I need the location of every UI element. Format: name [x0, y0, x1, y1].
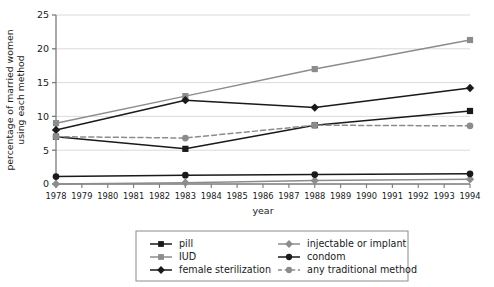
data-point-marker: [158, 241, 164, 247]
series-layer: [52, 37, 474, 188]
y-axis-tick-label: 10: [37, 111, 49, 122]
x-axis-tick-label: 1984: [201, 191, 222, 201]
legend-label: pill: [179, 238, 193, 249]
x-axis-tick-label: 1986: [252, 191, 273, 201]
series-line: [56, 174, 470, 177]
data-point-marker: [466, 84, 474, 92]
legend-label: condom: [307, 251, 346, 262]
data-point-marker: [311, 122, 318, 129]
series-line: [56, 40, 470, 123]
x-axis-tick-label: 1994: [459, 191, 480, 201]
y-axis-title-line1: percentage of married women: [4, 29, 15, 170]
data-point-marker: [467, 37, 473, 43]
series-line: [56, 88, 470, 130]
legend-label: IUD: [179, 251, 196, 262]
data-point-marker: [286, 267, 292, 273]
x-axis-tick-label: 1980: [97, 191, 118, 201]
y-axis-tick-label: 20: [37, 43, 49, 54]
series-line: [56, 179, 470, 184]
line-chart: 0510152025 19781979198019811982198319841…: [0, 0, 494, 287]
y-axis-title: percentage of married womenusing each me…: [4, 29, 26, 170]
x-axis-title: year: [252, 205, 273, 216]
y-axis: 0510152025: [37, 9, 56, 189]
data-point-marker: [52, 126, 60, 134]
y-axis-title-line2: using each method: [15, 55, 26, 144]
legend-label: female sterilization: [179, 264, 271, 275]
x-axis-title: year: [252, 205, 273, 216]
x-axis-tick-label: 1990: [356, 191, 377, 201]
data-point-marker: [286, 254, 292, 260]
y-axis-tick-label: 0: [43, 178, 49, 189]
series-line: [56, 125, 470, 138]
data-point-marker: [53, 173, 60, 180]
data-point-marker: [53, 120, 59, 126]
data-point-marker: [467, 171, 474, 178]
data-point-marker: [467, 123, 474, 130]
data-series: [53, 171, 474, 180]
y-axis-tick-label: 15: [37, 77, 49, 88]
data-point-marker: [158, 254, 164, 260]
data-point-marker: [467, 108, 473, 114]
data-point-marker: [52, 180, 60, 188]
data-point-marker: [311, 171, 318, 178]
x-axis-tick-label: 1988: [304, 191, 325, 201]
x-axis-tick-label: 1987: [278, 191, 299, 201]
x-axis-tick-label: 1978: [45, 191, 66, 201]
data-point-marker: [311, 103, 319, 111]
data-point-marker: [53, 133, 60, 140]
data-point-marker: [182, 172, 189, 179]
x-axis: 1978197919801981198219831984198519861987…: [45, 184, 480, 201]
x-axis-tick-label: 1985: [227, 191, 248, 201]
x-axis-tick-label: 1992: [408, 191, 429, 201]
data-point-marker: [182, 135, 189, 142]
x-axis-tick-label: 1989: [330, 191, 351, 201]
x-axis-tick-label: 1991: [382, 191, 403, 201]
x-axis-tick-label: 1993: [434, 191, 455, 201]
data-series: [53, 37, 473, 126]
y-axis-tick-label: 5: [43, 145, 49, 156]
data-series: [52, 84, 474, 134]
data-point-marker: [312, 66, 318, 72]
y-axis-tick-label: 25: [37, 9, 49, 20]
x-axis-tick-label: 1979: [71, 191, 92, 201]
data-point-marker: [181, 178, 189, 186]
legend-label: any traditional method: [307, 264, 417, 275]
data-point-marker: [182, 146, 188, 152]
data-series: [53, 122, 474, 142]
x-axis-tick-label: 1981: [123, 191, 144, 201]
legend-box: pillIUDfemale sterilizationinjectable or…: [136, 231, 417, 281]
x-axis-tick-label: 1982: [149, 191, 170, 201]
x-axis-tick-label: 1983: [175, 191, 196, 201]
chart-figure: 0510152025 19781979198019811982198319841…: [0, 0, 494, 287]
legend-label: injectable or implant: [307, 238, 407, 249]
